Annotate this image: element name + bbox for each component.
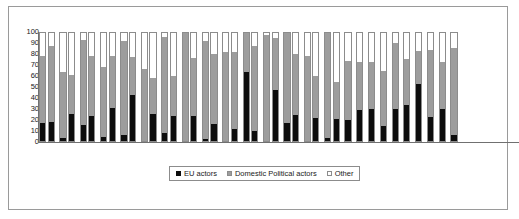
stacked-bar [304,32,311,142]
bar-segment-domestic-political-actors [60,72,65,138]
bar-segment-eu-actors [273,90,278,141]
bar-segment-domestic-political-actors [334,82,339,120]
bar-segment-domestic-political-actors [40,56,45,123]
stacked-bar [88,32,95,142]
bar-segment-eu-actors [171,116,176,141]
stacked-bar [231,32,238,142]
bar-segment-domestic-political-actors [345,61,350,120]
stacked-bar [403,32,410,142]
stacked-bar [344,32,351,142]
bar-group [392,32,399,142]
bar-group [80,32,96,142]
bar-segment-eu-actors [334,119,339,141]
stacked-bar [210,32,217,142]
bar-segment-domestic-political-actors [293,54,298,116]
stacked-bar [356,32,363,142]
stacked-bar [450,32,457,142]
legend-item: Domestic Political actors [227,170,317,178]
bar-segment-eu-actors [325,138,330,141]
bar-segment-domestic-political-actors [183,33,188,141]
bar-segment-domestic-political-actors [252,46,257,131]
bar-segment-other [130,33,135,57]
stacked-bar [368,32,375,142]
bar-segment-domestic-political-actors [69,75,74,114]
stacked-bar [439,32,446,142]
bar-group [161,32,177,142]
bar-segment-domestic-political-actors [162,37,167,133]
bar-segment-domestic-political-actors [357,62,362,110]
legend-swatch-other-icon [327,171,332,176]
bar-segment-domestic-political-actors [89,56,94,116]
bar-segment-domestic-political-actors [273,38,278,90]
bar-segment-domestic-political-actors [393,43,398,109]
stacked-bar [380,32,387,142]
bar-group [415,32,422,142]
bar-segment-domestic-political-actors [232,52,237,129]
bar-segment-eu-actors [369,109,374,141]
stacked-bar [120,32,127,142]
bar-segment-domestic-political-actors [101,67,106,137]
bar-segment-eu-actors [130,95,135,141]
bar-segment-domestic-political-actors [223,52,228,141]
bar-segment-other [69,33,74,75]
bar-segment-domestic-political-actors [313,76,318,118]
bar-segment-other [203,33,208,41]
chart-screenshot: 1009080706050403020100 EU actorsDomestic… [0,0,519,219]
bar-segment-eu-actors [232,129,237,141]
bar-segment-eu-actors [440,109,445,141]
stacked-bar [68,32,75,142]
bar-segment-other [232,33,237,52]
bar-segment-domestic-political-actors [264,35,269,141]
bar-segment-eu-actors [49,122,54,141]
bar-segment-other [428,33,433,50]
bar-segment-eu-actors [428,117,433,141]
stacked-bar [415,32,422,142]
bar-segment-eu-actors [357,110,362,141]
stacked-bar [100,32,107,142]
bar-segment-eu-actors [451,135,456,141]
stacked-bar [427,32,434,142]
bar-group [39,32,55,142]
bar-segment-other [334,33,339,82]
bar-segment-other [451,33,456,48]
bar-segment-other [142,33,147,69]
bar-segment-eu-actors [89,116,94,141]
bar-segment-eu-actors [121,135,126,141]
bar-group [356,32,363,142]
stacked-bar [39,32,46,142]
bar-segment-domestic-political-actors [284,33,289,123]
bar-segment-domestic-political-actors [110,56,115,108]
bar-segment-eu-actors [162,133,167,141]
bar-segment-other [404,33,409,59]
bar-segment-domestic-political-actors [150,78,155,114]
bar-group [182,32,198,142]
bar-group [100,32,116,142]
stacked-bar [202,32,209,142]
bar-segment-domestic-political-actors [121,41,126,135]
bar-segment-other [305,33,310,56]
bar-series-container [39,32,519,142]
bar-segment-other [171,33,176,76]
bar-segment-eu-actors [404,105,409,141]
bar-segment-domestic-political-actors [81,40,86,125]
stacked-bar [48,32,55,142]
stacked-bar [161,32,168,142]
bar-segment-domestic-political-actors [440,62,445,108]
bar-segment-eu-actors [69,114,74,141]
stacked-bar [170,32,177,142]
bar-segment-other [110,33,115,56]
bar-group [59,32,75,142]
legend-label: EU actors [184,170,217,178]
stacked-bar [263,32,270,142]
y-axis-tick-labels: 1009080706050403020100 [17,32,39,152]
stacked-bar [109,32,116,142]
bar-group [403,32,410,142]
x-axis-line [39,142,519,143]
bar-segment-domestic-political-actors [416,51,421,83]
bar-segment-other [369,33,374,62]
bar-segment-eu-actors [393,109,398,141]
bar-group [439,32,446,142]
bar-segment-domestic-political-actors [171,76,176,116]
bar-segment-other [89,33,94,56]
legend-swatch-eu-icon [176,171,181,176]
